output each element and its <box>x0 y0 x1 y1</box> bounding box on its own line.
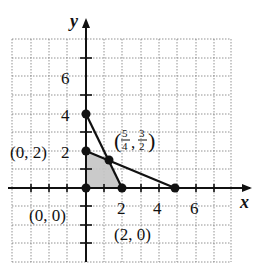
y-tick-6: 6 <box>61 69 70 88</box>
point-label-5-4-3-2: ( 5 4 , 3 2 ) <box>114 127 155 153</box>
x-tick-6: 6 <box>190 199 199 218</box>
y-axis-label: y <box>68 11 79 31</box>
point-label-0-2: (0, 2) <box>10 143 47 162</box>
svg-text:): ) <box>148 128 155 153</box>
y-tick-2: 2 <box>61 143 70 162</box>
point-label-2-0: (2, 0) <box>114 225 151 244</box>
y-axis-arrow-icon <box>82 18 90 28</box>
svg-text:3: 3 <box>139 127 145 139</box>
x-axis-label: x <box>239 192 249 212</box>
x-axis-arrow-icon <box>242 184 252 192</box>
graph-figure: y x 6 4 2 2 4 6 (0, 2) (0, 0) (2, 0) ( 5… <box>0 0 261 265</box>
svg-text:,: , <box>131 133 135 152</box>
svg-text:5: 5 <box>122 127 128 139</box>
point-label-0-0: (0, 0) <box>29 206 66 225</box>
x-tick-2: 2 <box>117 199 126 218</box>
coordinate-plane: y x 6 4 2 2 4 6 (0, 2) (0, 0) (2, 0) ( 5… <box>0 0 261 265</box>
svg-text:2: 2 <box>139 140 145 152</box>
svg-text:(: ( <box>114 128 121 153</box>
y-tick-4: 4 <box>61 106 70 125</box>
svg-text:4: 4 <box>122 140 128 152</box>
x-tick-4: 4 <box>153 199 162 218</box>
